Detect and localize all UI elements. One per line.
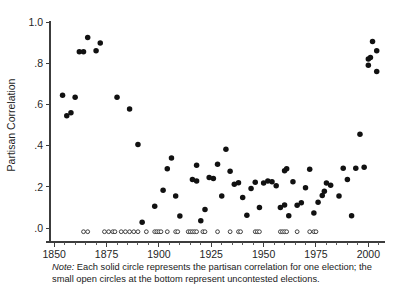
x-axis-ticks: 1850187519001925195019752000 [43, 242, 381, 260]
data-point-solid [336, 193, 342, 199]
data-point-solid [269, 179, 275, 185]
data-point-open [103, 230, 107, 234]
data-point-solid [215, 161, 221, 167]
data-points [60, 35, 380, 225]
note-body: Each solid circle represents the partisa… [52, 262, 372, 284]
data-point-open [123, 230, 127, 234]
data-point-solid [114, 94, 120, 100]
data-point-solid [236, 180, 242, 186]
data-point-solid [307, 167, 313, 173]
data-point-solid [72, 94, 78, 100]
y-tick-label: 1.0 [28, 16, 43, 28]
data-point-solid [98, 40, 104, 46]
data-point-solid [244, 212, 250, 218]
data-point-solid [160, 188, 166, 194]
data-point-open [136, 230, 140, 234]
data-point-solid [223, 147, 229, 153]
data-point-solid [349, 213, 355, 219]
data-point-solid [127, 106, 133, 112]
uncontested-markers [82, 230, 318, 234]
data-point-solid [248, 186, 254, 192]
data-point-solid [173, 193, 179, 199]
data-point-open [107, 230, 111, 234]
data-point-open [132, 230, 136, 234]
y-axis-ticks: .0.2.4.6.81.0 [28, 16, 50, 234]
data-point-solid [177, 213, 183, 219]
data-point-solid [252, 180, 258, 186]
data-point-solid [361, 164, 367, 170]
data-point-solid [303, 185, 309, 191]
axes [46, 21, 385, 242]
data-point-solid [290, 179, 296, 185]
data-point-solid [322, 189, 328, 195]
data-point-solid [366, 63, 372, 69]
data-point-solid [81, 49, 87, 55]
data-point-solid [227, 169, 233, 175]
data-point-open [165, 230, 169, 234]
data-point-solid [315, 200, 321, 206]
note-label: Note: [52, 262, 74, 272]
partisan-correlation-figure: .0.2.4.6.81.0 18501875190019251950197520… [0, 0, 395, 296]
x-tick-label: 2000 [357, 248, 381, 260]
data-point-solid [240, 195, 246, 201]
data-point-solid [340, 166, 346, 172]
data-point-open [203, 230, 207, 234]
x-tick-label: 1850 [43, 248, 67, 260]
data-point-solid [139, 219, 145, 225]
data-point-solid [198, 218, 204, 224]
data-point-open [308, 230, 312, 234]
data-point-solid [85, 35, 91, 41]
x-tick-label: 1875 [95, 248, 119, 260]
data-point-solid [169, 155, 175, 161]
data-point-open [113, 230, 117, 234]
data-point-solid [219, 193, 225, 199]
data-point-open [128, 230, 132, 234]
data-point-solid [152, 204, 158, 210]
x-tick-label: 1925 [200, 248, 224, 260]
data-point-solid [284, 166, 290, 172]
y-tick-label: .8 [34, 57, 43, 69]
y-axis-label: Partisan Correlation [5, 78, 17, 171]
data-point-solid [328, 182, 334, 188]
data-point-open [258, 230, 262, 234]
data-point-solid [165, 166, 171, 172]
data-point-open [86, 230, 90, 234]
data-point-solid [60, 92, 66, 98]
y-axis-title: Partisan Correlation [5, 78, 17, 171]
data-point-solid [299, 200, 305, 206]
data-point-solid [357, 132, 363, 138]
data-point-solid [282, 202, 288, 208]
data-point-solid [368, 55, 374, 61]
data-point-solid [194, 162, 200, 168]
data-point-open [119, 230, 123, 234]
y-tick-label: .2 [34, 181, 43, 193]
data-point-solid [286, 213, 292, 219]
data-point-open [295, 230, 299, 234]
data-point-solid [345, 177, 351, 183]
data-point-solid [68, 110, 74, 116]
data-point-solid [353, 166, 359, 172]
data-point-solid [311, 210, 317, 216]
data-point-solid [211, 176, 217, 182]
data-point-open [239, 230, 243, 234]
y-tick-label: .0 [34, 222, 43, 234]
x-tick-label: 1975 [304, 248, 328, 260]
data-point-open [216, 230, 220, 234]
x-tick-label: 1900 [147, 248, 171, 260]
data-point-solid [273, 183, 279, 189]
data-point-solid [93, 48, 99, 54]
data-point-open [195, 230, 199, 234]
data-point-solid [374, 69, 380, 75]
data-point-open [82, 230, 86, 234]
data-point-open [159, 230, 163, 234]
data-point-open [176, 230, 180, 234]
data-point-open [314, 230, 318, 234]
data-point-solid [135, 142, 141, 148]
data-point-solid [202, 207, 208, 213]
data-point-solid [194, 178, 200, 184]
figure-note: Note: Each solid circle represents the p… [52, 261, 388, 286]
x-tick-label: 1950 [252, 248, 276, 260]
y-tick-label: .4 [34, 139, 43, 151]
data-point-open [285, 230, 289, 234]
data-point-open [228, 230, 232, 234]
